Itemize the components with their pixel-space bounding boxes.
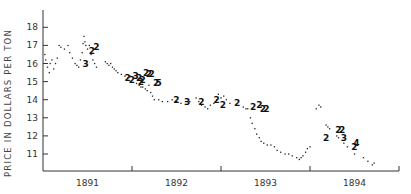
price-scatter-chart: 322223222222252322222222222324 111213141… — [0, 0, 411, 194]
data-point — [204, 106, 205, 107]
data-point — [245, 108, 246, 109]
data-point — [220, 97, 221, 98]
data-point — [327, 126, 328, 127]
data-point — [354, 153, 355, 154]
count-marker: 4 — [353, 138, 359, 148]
data-point — [112, 67, 113, 68]
data-point — [280, 152, 281, 153]
y-tick-label: 14 — [27, 95, 39, 105]
x-tick-label: 1894 — [343, 178, 366, 188]
data-point — [53, 68, 54, 69]
count-marker: 2 — [220, 100, 226, 110]
x-tick-label: 1893 — [254, 178, 277, 188]
data-point — [82, 52, 83, 53]
data-point — [343, 143, 344, 144]
data-point — [72, 57, 73, 58]
data-point — [69, 52, 70, 53]
data-point — [254, 128, 255, 129]
data-point — [296, 157, 297, 158]
data-point — [162, 101, 163, 102]
data-point — [229, 103, 230, 104]
data-point — [114, 68, 115, 69]
data-point — [78, 67, 79, 68]
x-tick-label: 1891 — [76, 178, 99, 188]
y-ticks: 1112131415161718 — [27, 22, 48, 159]
data-point — [267, 144, 268, 145]
data-point — [250, 117, 251, 118]
data-point — [299, 159, 300, 160]
data-point — [106, 63, 107, 64]
data-point — [76, 65, 77, 66]
data-point — [210, 105, 211, 106]
data-point — [320, 106, 321, 107]
y-tick-label: 12 — [27, 131, 38, 141]
data-point — [117, 72, 118, 73]
data-point — [152, 95, 153, 96]
data-point — [140, 86, 141, 87]
count-marker: 2 — [323, 133, 329, 143]
data-point — [60, 47, 61, 48]
data-point — [67, 45, 68, 46]
data-point — [373, 162, 374, 163]
data-point — [276, 150, 277, 151]
data-point — [260, 141, 261, 142]
count-marker: 2 — [93, 42, 99, 52]
y-tick-label: 13 — [27, 113, 38, 123]
data-point — [92, 59, 93, 60]
data-point — [226, 99, 227, 100]
data-point — [96, 67, 97, 68]
data-point — [195, 97, 196, 98]
data-point — [207, 108, 208, 109]
data-point — [55, 63, 56, 64]
data-point — [284, 153, 285, 154]
y-tick-label: 11 — [27, 149, 38, 159]
data-point — [84, 41, 85, 42]
data-point — [44, 54, 45, 55]
y-tick-label: 15 — [27, 77, 38, 87]
data-point — [158, 99, 159, 100]
count-marker: 5 — [156, 78, 162, 88]
data-point — [367, 161, 368, 162]
data-point — [108, 65, 109, 66]
data-point — [223, 95, 224, 96]
count-marker: 2 — [173, 95, 179, 105]
data-point — [115, 70, 116, 71]
data-point — [58, 45, 59, 46]
data-point — [309, 146, 310, 147]
data-point — [243, 106, 244, 107]
data-point — [80, 59, 81, 60]
data-point — [167, 101, 168, 102]
data-point — [45, 59, 46, 60]
data-point — [247, 108, 248, 109]
data-point — [147, 90, 148, 91]
data-point — [83, 36, 84, 37]
data-point — [252, 123, 253, 124]
data-point — [307, 148, 308, 149]
data-point — [142, 86, 143, 87]
data-point — [301, 157, 302, 158]
data-point — [263, 143, 264, 144]
data-point — [318, 105, 319, 106]
count-marker: 2 — [234, 98, 240, 108]
count-marker: 2 — [263, 104, 269, 114]
count-marker: 3 — [341, 133, 347, 143]
data-point — [121, 74, 122, 75]
data-point — [85, 45, 86, 46]
data-point — [51, 59, 52, 60]
data-point — [256, 133, 257, 134]
data-point — [338, 137, 339, 138]
count-markers: 322223222222252322222222222324 — [83, 42, 360, 152]
data-point — [305, 152, 306, 153]
y-axis-title: PRICE IN DOLLARS PER TON — [3, 29, 13, 177]
data-point — [105, 61, 106, 62]
data-point — [47, 67, 48, 68]
count-marker: 3 — [83, 59, 89, 69]
data-point — [49, 72, 50, 73]
data-point — [329, 128, 330, 129]
data-point — [145, 88, 146, 89]
data-point — [180, 103, 181, 104]
data-point — [372, 164, 373, 165]
data-point — [259, 137, 260, 138]
y-tick-label: 18 — [27, 22, 39, 32]
data-point — [57, 57, 58, 58]
